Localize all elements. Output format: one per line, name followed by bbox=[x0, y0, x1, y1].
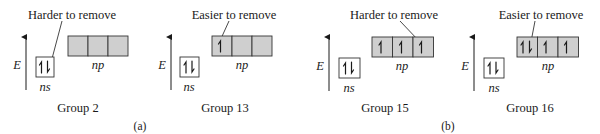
energy-axis-label: E bbox=[157, 58, 166, 72]
group-label: Group 15 bbox=[361, 101, 409, 115]
energy-axis-label: E bbox=[315, 59, 324, 73]
annotation-text: Easier to remove bbox=[499, 8, 584, 22]
np-label: np bbox=[396, 59, 409, 73]
annotation-text: Harder to remove bbox=[350, 8, 439, 22]
np-label: np bbox=[92, 58, 105, 72]
panel-group-2: Harder to remove E ns np Group 2 bbox=[12, 8, 128, 115]
np-orbital-box-2 bbox=[232, 36, 252, 56]
np-orbital-box-1 bbox=[212, 36, 232, 56]
ns-label: ns bbox=[488, 81, 499, 95]
orbital-diagram: Harder to remove E ns np Group 2 Easier … bbox=[0, 0, 600, 134]
np-orbital-boxes bbox=[212, 36, 272, 56]
np-orbital-boxes bbox=[68, 36, 128, 56]
annotation-text: Harder to remove bbox=[28, 8, 117, 22]
np-orbital-box-3 bbox=[413, 37, 434, 57]
np-orbital-box-3 bbox=[558, 37, 579, 57]
ns-label: ns bbox=[39, 80, 50, 94]
panel-group-13: Easier to remove E ns np Group 13 bbox=[157, 8, 277, 115]
np-orbital-box-3 bbox=[252, 36, 272, 56]
np-orbital-boxes bbox=[372, 37, 434, 57]
group-label: Group 13 bbox=[201, 101, 249, 115]
energy-axis-label: E bbox=[12, 58, 21, 72]
np-orbital-box-3 bbox=[108, 36, 128, 56]
np-orbital-box-2 bbox=[393, 37, 414, 57]
np-label: np bbox=[542, 59, 555, 73]
part-label-a: (a) bbox=[134, 120, 147, 133]
np-orbital-box-1 bbox=[372, 37, 393, 57]
ns-orbital-box bbox=[180, 57, 199, 77]
ns-orbital-box bbox=[484, 58, 504, 78]
annotation-text: Easier to remove bbox=[192, 8, 277, 22]
energy-axis-label: E bbox=[460, 59, 469, 73]
np-label: np bbox=[236, 58, 249, 72]
panel-group-16: Easier to remove E ns np Group 16 bbox=[460, 8, 584, 115]
ns-label: ns bbox=[183, 80, 194, 94]
np-orbital-boxes bbox=[517, 37, 579, 57]
np-orbital-box-2 bbox=[88, 36, 108, 56]
group-label: Group 16 bbox=[506, 101, 554, 115]
ns-orbital-box bbox=[36, 57, 54, 77]
part-label-b: (b) bbox=[441, 120, 455, 133]
np-orbital-box-2 bbox=[538, 37, 559, 57]
np-orbital-box-1 bbox=[68, 36, 88, 56]
ns-orbital-box bbox=[339, 58, 360, 78]
np-orbital-box-1 bbox=[517, 37, 538, 57]
ns-label: ns bbox=[343, 81, 354, 95]
group-label: Group 2 bbox=[57, 101, 98, 115]
panel-group-15: Harder to remove E ns np Group 15 bbox=[315, 8, 438, 115]
